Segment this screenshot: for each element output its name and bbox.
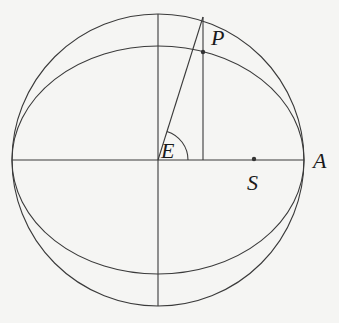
focus-S-dot (252, 157, 256, 161)
label-E: E (161, 140, 174, 162)
point-P-dot (201, 50, 205, 54)
label-A: A (313, 150, 326, 172)
diagram-canvas: P E A S (0, 0, 339, 323)
label-S: S (247, 172, 258, 194)
label-P: P (211, 27, 224, 49)
